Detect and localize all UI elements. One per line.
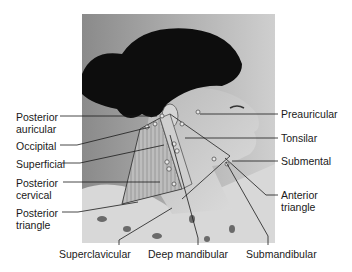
label-submandibular: Submandibular xyxy=(246,248,317,260)
label-line: Occipital xyxy=(16,140,56,152)
label-line: triangle xyxy=(16,219,58,231)
label-superficial: Superficial xyxy=(16,158,65,170)
label-line: Submental xyxy=(281,155,331,167)
label-anterior-triangle: Anterior triangle xyxy=(281,189,318,213)
label-line: Tonsilar xyxy=(281,132,317,144)
head-neck-photo xyxy=(82,14,275,243)
label-line: triangle xyxy=(281,201,318,213)
label-line: auricular xyxy=(16,123,58,135)
label-line: Posterior xyxy=(16,207,58,219)
label-deep-mandibular: Deep mandibular xyxy=(148,248,228,260)
label-submental: Submental xyxy=(281,155,331,167)
label-line: Anterior xyxy=(281,189,318,201)
label-line: Preauricular xyxy=(281,108,338,120)
label-superclavicular: Superclavicular xyxy=(59,248,131,260)
label-line: Submandibular xyxy=(246,248,317,260)
label-posterior-triangle: Posterior triangle xyxy=(16,207,58,231)
label-posterior-cervical: Posterior cervical xyxy=(16,177,58,201)
label-preauricular: Preauricular xyxy=(281,108,338,120)
label-line: Posterior xyxy=(16,111,58,123)
label-line: Superficial xyxy=(16,158,65,170)
label-tonsilar: Tonsilar xyxy=(281,132,317,144)
label-line: Superclavicular xyxy=(59,248,131,260)
lymph-node-diagram: Posterior auricular Occipital Superficia… xyxy=(0,0,352,272)
label-line: cervical xyxy=(16,189,58,201)
label-line: Deep mandibular xyxy=(148,248,228,260)
label-posterior-auricular: Posterior auricular xyxy=(16,111,58,135)
label-line: Posterior xyxy=(16,177,58,189)
label-occipital: Occipital xyxy=(16,140,56,152)
